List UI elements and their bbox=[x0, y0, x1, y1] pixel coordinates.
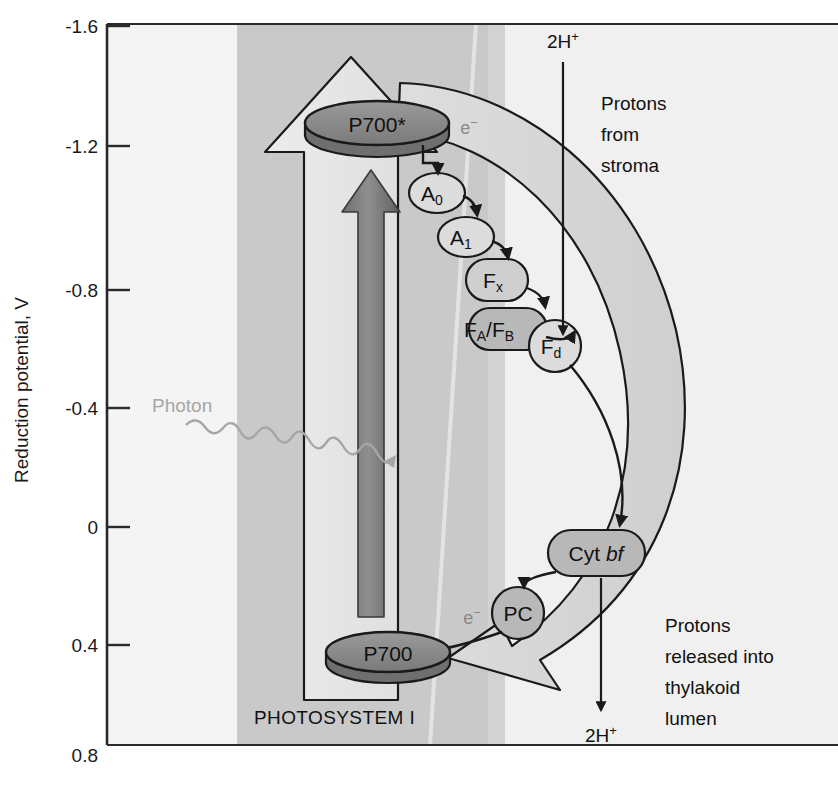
proton-in-caption-line-2: stroma bbox=[601, 155, 660, 176]
y-tick-label-1: -1.2 bbox=[65, 136, 98, 157]
figure-root: -1.6 -1.2 -0.8 -0.4 0 0.4 0.8 Reduction … bbox=[0, 0, 838, 786]
node-label-fx: F bbox=[483, 269, 496, 292]
node-sub-a1: 1 bbox=[464, 236, 472, 252]
node-label-p700: P700 bbox=[363, 642, 412, 665]
photon-label: Photon bbox=[152, 395, 212, 416]
node-sub-a0: 0 bbox=[435, 192, 443, 208]
node-fx: Fx bbox=[466, 259, 528, 301]
node-label-p700-star: P700* bbox=[348, 113, 405, 136]
photosystem-i-diagram: -1.6 -1.2 -0.8 -0.4 0 0.4 0.8 Reduction … bbox=[0, 0, 838, 786]
node-label-fa: F bbox=[464, 318, 477, 341]
y-axis-title: Reduction potential, V bbox=[11, 297, 32, 483]
node-label-a0: A bbox=[421, 182, 435, 205]
node-a1: A1 bbox=[438, 217, 494, 257]
node-cyt-bf: Cyt bf bbox=[548, 530, 645, 576]
node-pc: PC bbox=[492, 587, 544, 639]
node-label-pc: PC bbox=[503, 602, 532, 625]
proton-out-caption-line-3: lumen bbox=[665, 708, 717, 729]
node-label-cyt: Cyt bbox=[569, 542, 606, 565]
proton-out-caption-line-1: released into bbox=[665, 646, 774, 667]
node-a0: A0 bbox=[409, 173, 465, 213]
y-tick-label-2: -0.8 bbox=[65, 280, 98, 301]
node-label-a1: A bbox=[450, 226, 464, 249]
y-tick-label-5: 0.4 bbox=[72, 635, 99, 656]
y-tick-label-3: -0.4 bbox=[65, 398, 98, 419]
node-p700: P700 bbox=[326, 632, 450, 683]
proton-out-caption-line-0: Protons bbox=[665, 615, 730, 636]
node-sub-fb: B bbox=[505, 328, 514, 344]
proton-in-caption-line-0: Protons bbox=[601, 93, 666, 114]
proton-in-caption-line-1: from bbox=[601, 124, 639, 145]
proton-out-caption-line-2: thylakoid bbox=[665, 677, 740, 698]
y-tick-label-6: 0.8 bbox=[72, 745, 98, 766]
y-tick-label-0: -1.6 bbox=[65, 16, 98, 37]
node-sub-fx: x bbox=[496, 279, 503, 295]
node-label-bf: bf bbox=[606, 542, 626, 565]
y-tick-label-4: 0 bbox=[87, 517, 98, 538]
node-p700-star: P700* bbox=[305, 101, 449, 157]
node-label-fb-sep: /F bbox=[486, 318, 505, 341]
svg-text:Cyt bf: Cyt bf bbox=[569, 542, 626, 565]
node-sub-fd: d bbox=[554, 345, 562, 361]
node-fd: Fd bbox=[529, 320, 581, 372]
photosystem-label: PHOTOSYSTEM I bbox=[254, 707, 415, 728]
